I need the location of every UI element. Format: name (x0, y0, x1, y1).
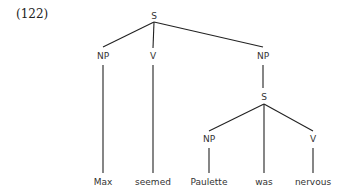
leaf-max: Max (94, 177, 113, 187)
leaf-was: was (255, 177, 273, 187)
edge-s2-v2 (264, 104, 313, 131)
edge-s-v (153, 22, 154, 48)
node-v-embedded: V (310, 134, 317, 144)
node-s-embedded: S (261, 92, 267, 102)
node-np-complement: NP (257, 51, 270, 61)
leaf-nervous: nervous (295, 177, 331, 187)
tree-edges (103, 22, 313, 173)
edge-s-np (103, 22, 154, 47)
tree-nodes: S NP V NP S NP V (97, 11, 317, 144)
edge-s2-np3 (209, 104, 264, 131)
tree-leaves: Max seemed Paulette was nervous (94, 177, 332, 187)
node-s-root: S (151, 11, 157, 21)
leaf-paulette: Paulette (191, 177, 228, 187)
node-v-seemed: V (150, 51, 157, 61)
syntax-tree: S NP V NP S NP V Max seemed Paulette was… (0, 0, 345, 192)
leaf-seemed: seemed (135, 177, 171, 187)
node-np-embedded: NP (203, 134, 216, 144)
edge-s-np2 (154, 22, 263, 47)
node-np-subject: NP (97, 51, 110, 61)
